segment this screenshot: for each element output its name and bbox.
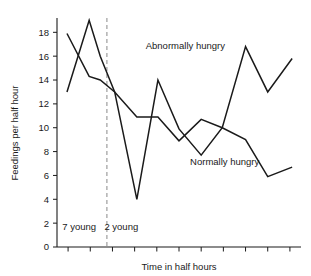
y-tick-label-16: 16 xyxy=(38,51,49,62)
panel-label-7-young: 7 young xyxy=(62,221,96,232)
y-tick-label-4: 4 xyxy=(44,194,49,205)
y-tick-label-14: 14 xyxy=(38,74,49,85)
series-label-abnormally-hungry: Abnormally hungry xyxy=(146,40,225,51)
chart-container: 024681012141618 Abnormally hungry Normal… xyxy=(0,0,311,276)
y-tick-label-0: 0 xyxy=(44,241,49,252)
feedings-line-chart: 024681012141618 Abnormally hungry Normal… xyxy=(0,0,311,276)
panel-label-2-young: 2 young xyxy=(104,221,138,232)
y-tick-label-2: 2 xyxy=(44,218,49,229)
x-axis-tick-marks xyxy=(68,247,290,252)
y-axis-title: Feedings per half hour xyxy=(9,85,20,180)
y-tick-label-6: 6 xyxy=(44,170,49,181)
y-axis-tick-marks xyxy=(53,32,57,247)
y-tick-label-8: 8 xyxy=(44,146,49,157)
y-tick-label-10: 10 xyxy=(38,122,49,133)
y-tick-label-18: 18 xyxy=(38,27,49,38)
x-axis-title: Time in half hours xyxy=(141,261,216,272)
series-label-normally-hungry: Normally hungry xyxy=(190,156,259,167)
y-tick-label-12: 12 xyxy=(38,98,49,109)
y-axis-tick-labels: 024681012141618 xyxy=(38,27,49,253)
